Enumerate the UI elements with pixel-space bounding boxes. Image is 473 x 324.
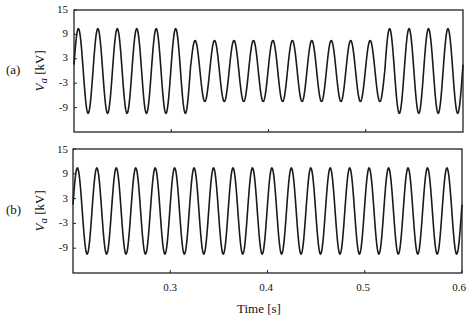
voltage-waveform: [74, 29, 463, 114]
xtick-0.5: 0.5: [348, 281, 378, 293]
panel-a-label: (a): [6, 62, 20, 78]
panel-a-ytick-m9: -9: [46, 101, 68, 113]
panel-a-ytick-3: 3: [46, 51, 68, 63]
panel-b-ytick-9: 9: [46, 167, 68, 179]
panel-b-label: (b): [6, 202, 21, 218]
xtick-0.4: 0.4: [251, 281, 281, 293]
panel-a-plot: [74, 10, 463, 132]
voltage-waveform: [73, 168, 462, 254]
panel-a-ytick-m3: -3: [46, 76, 68, 88]
xtick-0.6: 0.6: [444, 281, 473, 293]
y-unit: [kV]: [32, 190, 47, 218]
chart-canvas: [0, 0, 473, 324]
panel-a-ytick-15: 15: [46, 3, 68, 15]
y-unit: [kV]: [32, 50, 47, 78]
y-var: V: [32, 83, 47, 91]
panel-a-ytick-9: 9: [46, 27, 68, 39]
panel-b-ytick-3: 3: [46, 192, 68, 204]
panel-b-ytick-m9: -9: [46, 241, 68, 253]
y-var: V: [32, 223, 47, 231]
panel-b-ytick-m3: -3: [46, 216, 68, 228]
panel-b-plot: [73, 149, 462, 273]
panel-b-ytick-15: 15: [46, 143, 68, 155]
xtick-0.3: 0.3: [155, 281, 185, 293]
x-axis-label: Time [s]: [237, 301, 281, 317]
